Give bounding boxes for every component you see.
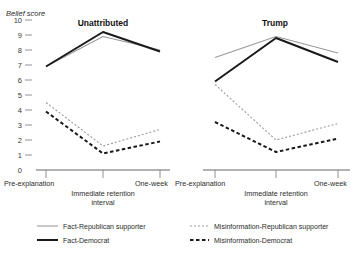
legend-label: Fact-Republican supporter	[63, 223, 146, 231]
y-axis-title: Belief score	[6, 9, 45, 18]
series-line	[46, 32, 160, 67]
y-tick-label: 3	[18, 121, 22, 130]
y-tick-label: 1	[18, 151, 22, 160]
x-axis-label-line2: interval	[91, 198, 115, 207]
belief-score-line-chart: Belief score 10 9 8 7 6 5 4 3 2 1 0 Unat…	[0, 0, 360, 257]
y-tick-label: 7	[18, 61, 22, 70]
legend-label: Misinformation-Democrat	[214, 237, 292, 244]
x-tick-label-week: One-week	[135, 179, 168, 188]
series-line	[215, 122, 338, 152]
x-axis-label-line1: Immediate retention	[71, 189, 135, 198]
y-tick-label: 9	[18, 31, 22, 40]
panel-title: Unattributed	[78, 18, 129, 28]
panel-unattributed: Unattributed Pre-explanation One-week Im…	[4, 18, 170, 207]
y-axis-ticks: 10 9 8 7 6 5 4 3 2 1 0	[14, 16, 32, 175]
y-tick-label: 4	[18, 106, 22, 115]
legend-item-misinformation-republican: Misinformation-Republican supporter	[190, 223, 329, 231]
legend-label: Fact-Democrat	[63, 237, 109, 244]
x-axis-label-line1: Immediate retention	[244, 189, 308, 198]
legend-item-fact-republican: Fact-Republican supporter	[37, 223, 146, 231]
y-tick-label: 6	[18, 76, 22, 85]
y-tick-label: 10	[14, 16, 22, 25]
series-line	[46, 37, 160, 67]
x-axis-label-line2: interval	[264, 198, 288, 207]
legend: Fact-Republican supporter Fact-Democrat …	[37, 223, 329, 244]
x-tick-label-pre: Pre-explanation	[175, 179, 225, 188]
y-tick-label: 5	[18, 91, 22, 100]
x-tick-label-week: One-week	[314, 179, 347, 188]
x-tick-label-pre: Pre-explanation	[4, 179, 54, 188]
series-line	[46, 112, 160, 154]
legend-label: Misinformation-Republican supporter	[214, 223, 329, 231]
panel-title: Trump	[262, 18, 288, 28]
series-line	[215, 38, 338, 82]
y-tick-label: 0	[18, 166, 22, 175]
y-tick-label: 8	[18, 46, 22, 55]
panel-trump: Trump Pre-explanation One-week Immediate…	[175, 18, 350, 207]
panel-series-lines	[215, 37, 338, 153]
panel-series-lines	[46, 32, 160, 154]
legend-item-fact-democrat: Fact-Democrat	[37, 237, 109, 244]
y-tick-label: 2	[18, 136, 22, 145]
legend-item-misinformation-democrat: Misinformation-Democrat	[190, 237, 292, 244]
